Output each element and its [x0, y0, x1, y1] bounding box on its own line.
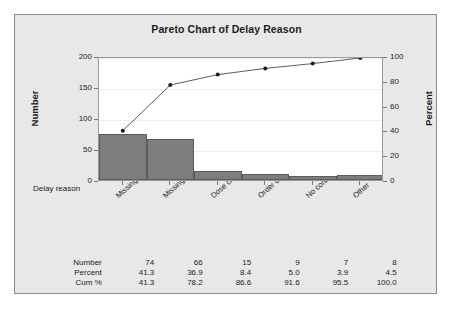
table-cell: 74	[106, 258, 154, 268]
y-tick-mark-right	[383, 107, 387, 108]
cumulative-line-path	[123, 58, 361, 131]
y-tick-mark-left	[94, 181, 98, 182]
table-row-label: Number	[15, 258, 106, 268]
y-axis-label-left: Number	[29, 79, 40, 139]
y-tick-label-left: 200	[58, 52, 92, 61]
y-tick-label-left: 150	[58, 83, 92, 92]
table-row: Percent41.336.98.45.03.94.5	[15, 268, 438, 278]
table-cell: 41.3	[106, 278, 154, 288]
y-tick-label-right: 40	[390, 126, 420, 135]
table-row-label: Percent	[15, 268, 106, 278]
table-cell: 41.3	[106, 268, 154, 278]
y-tick-label-right: 20	[390, 151, 420, 160]
table-row: Cum %41.378.286.691.695.5100.0	[15, 278, 438, 288]
cumulative-line-marker	[216, 73, 220, 77]
table-row-label: Cum %	[15, 278, 106, 288]
table-cell: 15	[203, 258, 251, 268]
y-tick-label-right: 60	[390, 102, 420, 111]
table-cell: 5.0	[251, 268, 299, 278]
category-label: Other	[351, 181, 371, 200]
cumulative-percent-line	[99, 58, 383, 181]
table-cell: 8	[348, 258, 396, 268]
table-cell: 91.6	[251, 278, 299, 288]
table-row: Number746615978	[15, 258, 438, 268]
y-tick-label-left: 100	[58, 114, 92, 123]
y-tick-label-left: 0	[58, 176, 92, 185]
cumulative-line-marker	[168, 83, 172, 87]
cumulative-line-marker	[358, 58, 362, 60]
table-cell: 8.4	[203, 268, 251, 278]
y-tick-mark-right	[383, 156, 387, 157]
table-cell-spacer	[397, 278, 438, 288]
table-cell: 9	[251, 258, 299, 268]
y-tick-mark-right	[383, 57, 387, 58]
y-tick-label-right: 0	[390, 176, 420, 185]
x-axis-label: Delay reason	[33, 184, 80, 193]
table-cell: 7	[300, 258, 348, 268]
pareto-chart-figure: Pareto Chart of Delay Reason Number Perc…	[14, 14, 437, 294]
table-cell: 86.6	[203, 278, 251, 288]
table-cell: 78.2	[154, 278, 202, 288]
table-cell: 3.9	[300, 268, 348, 278]
plot-area	[98, 57, 383, 181]
y-tick-mark-right	[383, 82, 387, 83]
y-tick-mark-right	[383, 181, 387, 182]
table-cell-spacer	[397, 268, 438, 278]
table-cell: 95.5	[300, 278, 348, 288]
cumulative-line-marker	[311, 62, 315, 66]
table-cell: 36.9	[154, 268, 202, 278]
summary-table: Number746615978Percent41.336.98.45.03.94…	[15, 258, 438, 288]
table-cell: 4.5	[348, 268, 396, 278]
y-tick-label-left: 50	[58, 145, 92, 154]
y-tick-label-right: 100	[390, 52, 420, 61]
y-tick-label-right: 80	[390, 77, 420, 86]
table-cell: 66	[154, 258, 202, 268]
y-axis-label-right: Percent	[423, 79, 434, 139]
cumulative-line-marker	[121, 129, 125, 133]
chart-title: Pareto Chart of Delay Reason	[15, 23, 438, 35]
table-cell-spacer	[397, 258, 438, 268]
cumulative-line-marker	[263, 66, 267, 70]
y-tick-mark-right	[383, 131, 387, 132]
table-cell: 100.0	[348, 278, 396, 288]
